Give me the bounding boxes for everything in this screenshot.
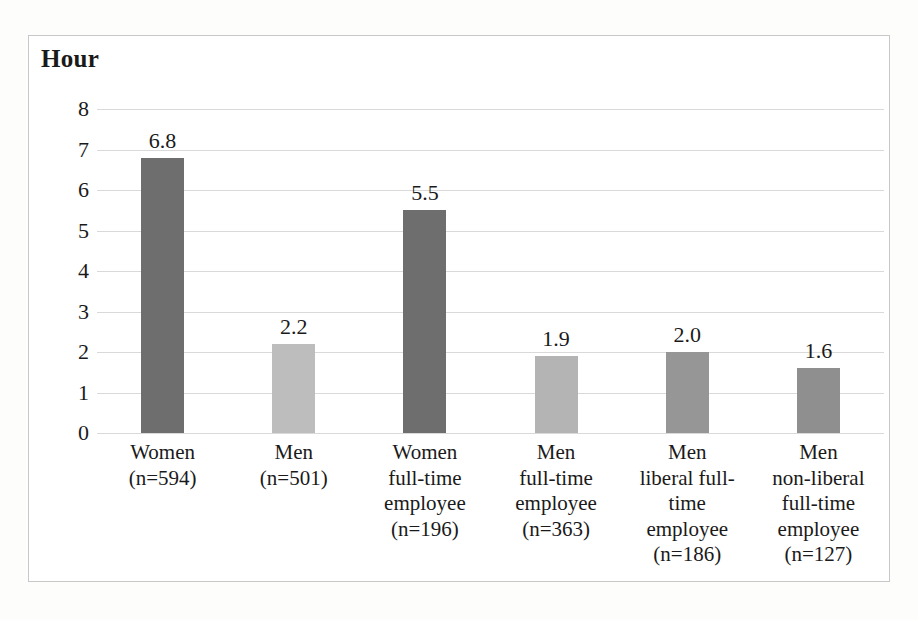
bar <box>141 158 184 433</box>
gridline <box>97 190 884 191</box>
gridline <box>97 109 884 110</box>
bar-value-label: 1.6 <box>758 340 878 362</box>
bar <box>403 210 446 433</box>
bar <box>272 344 315 433</box>
y-axis-tick-label: 1 <box>63 382 89 404</box>
bar <box>535 356 578 433</box>
x-axis-category-labels: Women (n=594)Men (n=501)Women full-time … <box>97 440 884 580</box>
y-axis-tick-label: 8 <box>63 98 89 120</box>
bar-value-label: 2.2 <box>234 316 354 338</box>
gridline <box>97 312 884 313</box>
x-axis-tick-label: Men non-liberal full-time employee (n=12… <box>753 440 884 568</box>
x-axis-tick-label: Women full-time employee (n=196) <box>359 440 490 542</box>
y-axis-tick-label: 7 <box>63 139 89 161</box>
x-axis-tick-label: Men (n=501) <box>228 440 359 491</box>
chart-frame: Hour 012345678 6.82.25.51.92.01.6 Women … <box>28 35 890 582</box>
gridline <box>97 393 884 394</box>
plot-area: 6.82.25.51.92.01.6 <box>97 109 884 433</box>
bar <box>797 368 840 433</box>
y-axis-tick-label: 0 <box>63 422 89 444</box>
y-axis: 012345678 <box>37 109 89 433</box>
y-axis-tick-label: 2 <box>63 341 89 363</box>
gridline <box>97 433 884 434</box>
bar <box>666 352 709 433</box>
y-axis-tick-label: 5 <box>63 220 89 242</box>
gridline <box>97 271 884 272</box>
y-axis-tick-label: 4 <box>63 260 89 282</box>
y-axis-tick-label: 3 <box>63 301 89 323</box>
page-title: Hour <box>41 46 99 71</box>
bar-value-label: 6.8 <box>103 130 223 152</box>
y-axis-tick-label: 6 <box>63 179 89 201</box>
x-axis-tick-label: Women (n=594) <box>97 440 228 491</box>
scanned-page: Hour 012345678 6.82.25.51.92.01.6 Women … <box>0 0 918 620</box>
bar-value-label: 2.0 <box>627 324 747 346</box>
gridline <box>97 231 884 232</box>
x-axis-tick-label: Men full-time employee (n=363) <box>491 440 622 542</box>
bar-value-label: 1.9 <box>496 328 616 350</box>
x-axis-tick-label: Men liberal full- time employee (n=186) <box>622 440 753 568</box>
bar-value-label: 5.5 <box>365 182 485 204</box>
